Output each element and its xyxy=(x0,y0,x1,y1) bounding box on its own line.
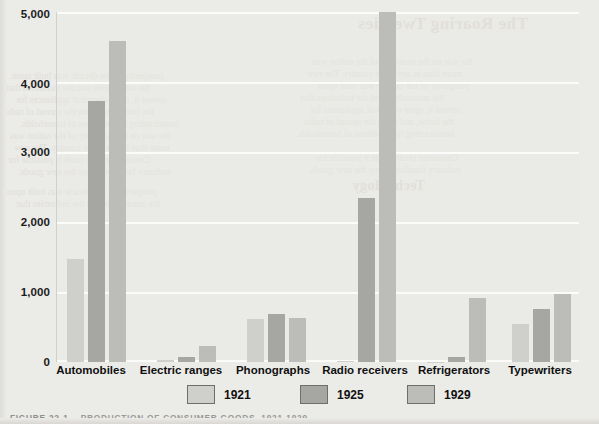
x-axis-category-label: Automobiles xyxy=(46,364,136,376)
legend-item-1921[interactable]: 1921 xyxy=(187,385,251,404)
bar-1921 xyxy=(337,361,354,362)
bar-1925 xyxy=(533,309,550,362)
bar-group xyxy=(337,12,399,362)
bar-group xyxy=(247,12,309,362)
x-axis-category-label: Electric ranges xyxy=(131,364,231,376)
plot-area xyxy=(56,12,579,362)
y-axis-tick-label: 5,000 xyxy=(0,8,50,20)
bar-1925 xyxy=(358,198,375,363)
x-axis-category-label: Phonographs xyxy=(225,364,321,376)
gridline xyxy=(57,152,579,154)
bar-1929 xyxy=(379,12,396,362)
legend-label-1929: 1929 xyxy=(444,388,471,402)
bar-group xyxy=(67,12,129,362)
legend-item-1925[interactable]: 1925 xyxy=(300,385,364,404)
chart-legend: 1921 1925 1929 xyxy=(0,385,599,407)
legend-swatch-1925 xyxy=(300,385,328,404)
gridline xyxy=(57,82,579,84)
x-axis-category-label: Refrigerators xyxy=(402,364,506,376)
bar-1929 xyxy=(199,346,216,362)
scanned-page: The Roaring Twenties the war on the econ… xyxy=(0,0,599,424)
bar-1929 xyxy=(109,41,126,362)
bar-group xyxy=(512,12,574,362)
bar-1925 xyxy=(178,357,195,362)
bar-1925 xyxy=(448,357,465,362)
legend-swatch-1921 xyxy=(187,385,215,404)
bar-group xyxy=(427,12,489,362)
legend-label-1925: 1925 xyxy=(337,388,364,402)
page-bottom-edge-shadow xyxy=(0,418,599,424)
bar-1929 xyxy=(289,318,306,362)
bar-1925 xyxy=(268,314,285,362)
legend-label-1921: 1921 xyxy=(224,388,251,402)
y-axis-tick-label: 0 xyxy=(0,356,50,368)
bar-group xyxy=(157,12,219,362)
y-axis-tick-label: 2,000 xyxy=(0,216,50,228)
bar-1921 xyxy=(157,360,174,362)
legend-item-1929[interactable]: 1929 xyxy=(407,385,471,404)
x-axis-category-label: Typewriters xyxy=(492,364,588,376)
y-axis-tick-label: 1,000 xyxy=(0,286,50,298)
legend-swatch-1929 xyxy=(407,385,435,404)
x-axis-baseline xyxy=(57,360,579,362)
bar-1921 xyxy=(247,319,264,362)
bar-1921 xyxy=(67,259,84,362)
gridline xyxy=(57,292,579,294)
bar-1921 xyxy=(512,324,529,362)
bar-1925 xyxy=(88,101,105,362)
page-left-edge-shadow xyxy=(0,0,7,424)
gridline xyxy=(57,222,579,224)
bar-1929 xyxy=(469,298,486,362)
bar-1929 xyxy=(554,294,571,362)
y-axis-tick-label: 4,000 xyxy=(0,78,50,90)
y-axis-tick-label: 3,000 xyxy=(0,146,50,158)
gridline xyxy=(57,12,579,14)
